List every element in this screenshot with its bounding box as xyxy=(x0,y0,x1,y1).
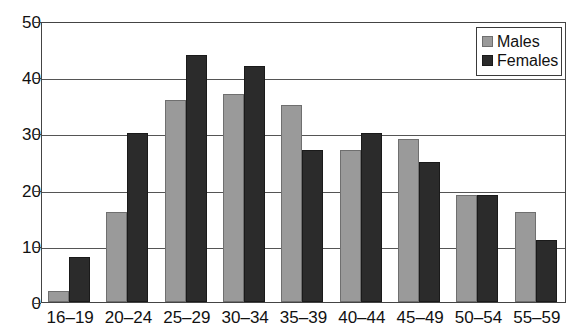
bar-males[interactable] xyxy=(165,100,186,302)
y-tick-mark xyxy=(34,78,41,79)
bar-group xyxy=(392,23,450,302)
legend-label-females: Females xyxy=(497,53,558,69)
x-tick-label: 40–44 xyxy=(333,309,391,326)
x-tick-label: 16–19 xyxy=(41,309,99,326)
bar-males[interactable] xyxy=(340,150,361,302)
bar-group xyxy=(100,23,158,302)
bar-group xyxy=(275,23,333,302)
bar-males[interactable] xyxy=(456,195,477,302)
bar-females[interactable] xyxy=(69,257,90,302)
bar-males[interactable] xyxy=(515,212,536,302)
bar-females[interactable] xyxy=(244,66,265,302)
bar-females[interactable] xyxy=(419,162,440,303)
bar-females[interactable] xyxy=(302,150,323,302)
bar-group xyxy=(334,23,392,302)
bar-males[interactable] xyxy=(223,94,244,302)
bar-males[interactable] xyxy=(106,212,127,302)
males-swatch-icon xyxy=(482,36,493,47)
bar-males[interactable] xyxy=(281,105,302,302)
legend-label-males: Males xyxy=(497,34,540,50)
x-tick-label: 30–34 xyxy=(216,309,274,326)
x-tick-label: 45–49 xyxy=(391,309,449,326)
x-axis: 16–1920–2425–2930–3435–3940–4445–4950–54… xyxy=(41,305,566,336)
legend-item-males[interactable]: Males xyxy=(482,32,556,51)
y-tick-mark xyxy=(34,134,41,135)
x-tick-label: 35–39 xyxy=(274,309,332,326)
chart-legend: Males Females xyxy=(476,27,562,76)
legend-item-females[interactable]: Females xyxy=(482,51,556,70)
bar-males[interactable] xyxy=(48,291,69,302)
bar-group xyxy=(159,23,217,302)
x-tick-label: 50–54 xyxy=(449,309,507,326)
bar-group xyxy=(42,23,100,302)
x-tick-label: 20–24 xyxy=(99,309,157,326)
x-tick-label: 25–29 xyxy=(158,309,216,326)
bar-females[interactable] xyxy=(361,133,382,302)
y-tick-mark xyxy=(34,247,41,248)
females-swatch-icon xyxy=(482,55,493,66)
y-tick-mark xyxy=(34,22,41,23)
y-axis: 01020304050 xyxy=(0,0,41,336)
bar-females[interactable] xyxy=(127,133,148,302)
y-tick-mark xyxy=(34,303,41,304)
y-tick-mark xyxy=(34,191,41,192)
bar-chart: 01020304050 16–1920–2425–2930–3435–3940–… xyxy=(0,0,577,336)
bar-females[interactable] xyxy=(186,55,207,302)
x-tick-label: 55–59 xyxy=(508,309,566,326)
bar-females[interactable] xyxy=(536,240,557,302)
bar-group xyxy=(217,23,275,302)
bar-males[interactable] xyxy=(398,139,419,302)
bar-females[interactable] xyxy=(477,195,498,302)
